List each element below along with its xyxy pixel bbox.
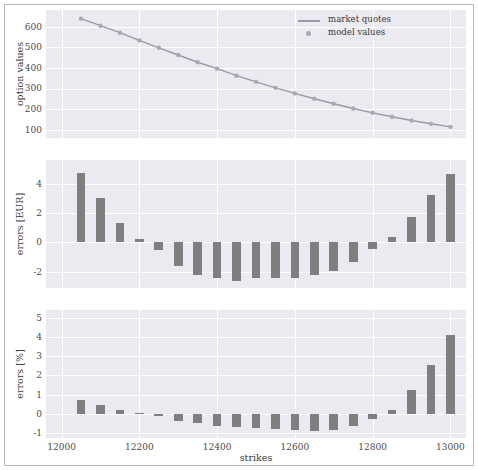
bar (271, 242, 280, 278)
marker-model-value (195, 60, 199, 64)
y-axis-title-top: option values (14, 42, 25, 106)
marker-model-value (79, 16, 83, 20)
bar (232, 414, 241, 428)
bar (388, 410, 397, 414)
panel-errors-pct (46, 310, 466, 438)
gridline-horizontal (46, 184, 466, 185)
marker-model-value (370, 111, 374, 115)
bar (154, 414, 163, 416)
figure-root: market quotes model values 1002003004005… (0, 0, 478, 470)
bar (407, 217, 416, 243)
gridline-vertical (62, 160, 63, 288)
y-tick-label: 2 (36, 370, 42, 380)
series-market-quotes (46, 10, 466, 138)
y-tick-label: 400 (25, 63, 42, 73)
marker-model-value (137, 38, 141, 42)
line-market-quotes (81, 19, 450, 127)
bar (174, 414, 183, 421)
bar (368, 414, 377, 419)
x-tick-label: 12200 (125, 442, 154, 452)
panel-errors-eur (46, 160, 466, 288)
bar (193, 242, 202, 274)
bar (271, 414, 280, 429)
y-tick-label: 300 (25, 83, 42, 93)
y-tick-label: 200 (25, 104, 42, 114)
gridline-vertical (373, 310, 374, 438)
marker-model-value (448, 125, 452, 129)
bar (427, 195, 436, 242)
bar (388, 237, 397, 242)
bar (77, 400, 86, 414)
marker-model-value (118, 31, 122, 35)
marker-model-value (332, 102, 336, 106)
bar (291, 242, 300, 277)
x-tick-label: 13000 (436, 442, 465, 452)
y-tick-label: 5 (36, 313, 42, 323)
gridline-vertical (62, 310, 63, 438)
bar (116, 410, 125, 414)
marker-model-value (312, 97, 316, 101)
gridline-horizontal (46, 356, 466, 357)
gridline-horizontal (46, 337, 466, 338)
y-tick-label: 0 (36, 409, 42, 419)
y-tick-label: 4 (36, 332, 42, 342)
marker-model-value (351, 106, 355, 110)
bar (232, 242, 241, 280)
bar (349, 414, 358, 427)
bar (193, 414, 202, 424)
bar (213, 414, 222, 426)
bar (349, 242, 358, 262)
y-tick-label: 500 (25, 42, 42, 52)
y-tick-label: 2 (36, 208, 42, 218)
y-tick-label: -1 (33, 428, 42, 438)
y-tick-label: 600 (25, 22, 42, 32)
gridline-horizontal (46, 375, 466, 376)
bar (329, 414, 338, 430)
marker-model-value (234, 73, 238, 77)
bar (427, 365, 436, 414)
gridline-horizontal (46, 318, 466, 319)
bar (213, 242, 222, 278)
legend-label: market quotes (328, 14, 391, 24)
bar (446, 174, 455, 242)
bar (135, 413, 144, 414)
marker-model-value (409, 118, 413, 122)
x-axis-title: strikes (240, 452, 273, 463)
bar (252, 414, 261, 428)
y-axis-title-bottom: errors [%] (14, 349, 25, 398)
panel-option-values: market quotes model values (46, 10, 466, 138)
y-tick-label: -2 (33, 267, 42, 277)
bar (252, 242, 261, 278)
bar (329, 242, 338, 271)
y-tick-label: 4 (36, 179, 42, 189)
marker-model-value (390, 115, 394, 119)
x-tick-label: 12400 (203, 442, 232, 452)
bar (135, 239, 144, 243)
x-tick-label: 12800 (358, 442, 387, 452)
bar (96, 198, 105, 242)
legend-label: model values (328, 27, 385, 37)
y-tick-label: 100 (25, 125, 42, 135)
bar (174, 242, 183, 266)
x-tick-label: 12600 (281, 442, 310, 452)
bar (154, 242, 163, 250)
marker-model-value (215, 66, 219, 70)
gridline-vertical (373, 160, 374, 288)
bar (446, 335, 455, 414)
bar (310, 414, 319, 431)
y-tick-label: 1 (36, 390, 42, 400)
bar (291, 414, 300, 430)
marker-model-value (429, 122, 433, 126)
bar (368, 242, 377, 249)
marker-model-value (176, 53, 180, 57)
bar (116, 223, 125, 243)
y-tick-label: 3 (36, 351, 42, 361)
y-tick-label: 0 (36, 237, 42, 247)
marker-model-value (254, 80, 258, 84)
line-swatch-icon (298, 20, 320, 22)
gridline-horizontal (46, 395, 466, 396)
x-tick-label: 12000 (47, 442, 76, 452)
gridline-horizontal (46, 433, 466, 434)
bar (310, 242, 319, 275)
gridline-horizontal (46, 213, 466, 214)
